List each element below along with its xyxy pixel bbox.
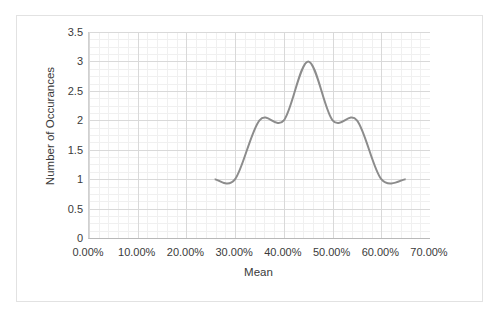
series-line bbox=[215, 61, 406, 183]
chart-container: Number of Occurances 00.511.522.533.5 0.… bbox=[16, 15, 483, 302]
y-axis-tick-label: 2 bbox=[45, 113, 83, 127]
data-line-series bbox=[89, 32, 430, 238]
y-axis-tick-label: 3.5 bbox=[45, 25, 83, 39]
y-axis-tick-label: 2.5 bbox=[45, 84, 83, 98]
plot-area bbox=[88, 32, 430, 239]
x-axis-title: Mean bbox=[88, 266, 429, 278]
y-axis-tick-label: 0.5 bbox=[45, 202, 83, 216]
y-axis-tick-labels: 00.511.522.533.5 bbox=[45, 25, 83, 231]
x-axis-tick-label: 70.00% bbox=[394, 244, 464, 260]
y-axis-tick-label: 1 bbox=[45, 172, 83, 186]
y-axis-tick-label: 1.5 bbox=[45, 143, 83, 157]
y-axis-tick-label: 3 bbox=[45, 54, 83, 68]
y-axis-tick-label: 0 bbox=[45, 231, 83, 245]
x-axis-tick-labels: 0.00%10.00%20.00%30.00%40.00%50.00%60.00… bbox=[88, 244, 429, 260]
